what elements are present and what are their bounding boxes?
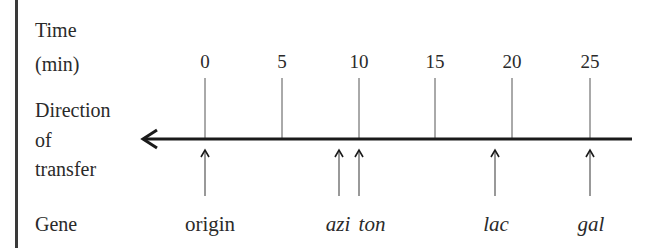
transfer-timeline-diagram	[0, 0, 661, 248]
